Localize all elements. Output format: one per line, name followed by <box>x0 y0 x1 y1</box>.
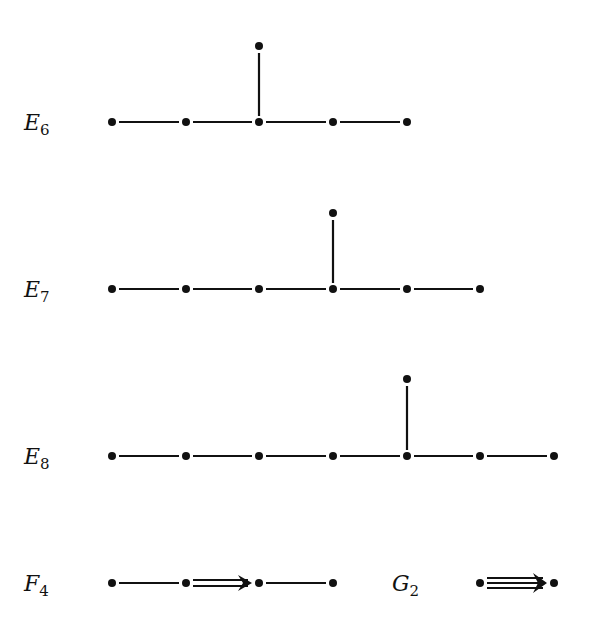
node-dot <box>255 452 263 460</box>
node-dot <box>108 452 116 460</box>
node-dot <box>403 285 411 293</box>
diagram-label: E6 <box>23 110 50 139</box>
node-dot <box>329 285 337 293</box>
dynkin-diagrams-canvas: E6E7E8F4G2 <box>0 0 593 631</box>
diagram-f4: F4 <box>23 571 337 600</box>
node-dot <box>255 118 263 126</box>
node-dot <box>550 579 558 587</box>
diagram-label: E8 <box>23 444 50 473</box>
node-dot <box>182 579 190 587</box>
node-dot <box>329 118 337 126</box>
diagram-label: G2 <box>392 571 419 600</box>
node-dot <box>255 42 263 50</box>
diagram-label: E7 <box>23 277 50 306</box>
diagram-e8: E8 <box>23 375 558 473</box>
node-dot <box>476 452 484 460</box>
node-dot <box>182 118 190 126</box>
diagram-e6: E6 <box>23 42 411 139</box>
node-dot <box>182 452 190 460</box>
node-dot <box>476 579 484 587</box>
node-dot <box>329 452 337 460</box>
node-dot <box>550 452 558 460</box>
node-dot <box>108 579 116 587</box>
node-dot <box>108 118 116 126</box>
node-dot <box>255 579 263 587</box>
node-dot <box>108 285 116 293</box>
node-dot <box>329 579 337 587</box>
node-dot <box>403 118 411 126</box>
node-dot <box>476 285 484 293</box>
node-dot <box>403 452 411 460</box>
node-dot <box>329 209 337 217</box>
diagram-e7: E7 <box>23 209 484 306</box>
node-dot <box>403 375 411 383</box>
node-dot <box>182 285 190 293</box>
node-dot <box>255 285 263 293</box>
diagram-label: F4 <box>23 571 49 600</box>
arrow-head-icon <box>238 575 252 591</box>
diagram-g2: G2 <box>392 571 558 600</box>
